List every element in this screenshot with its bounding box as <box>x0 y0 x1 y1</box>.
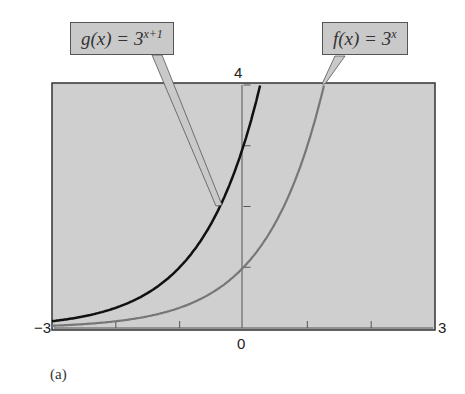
x-zero-label: 0 <box>237 335 245 352</box>
g-callout: g(x) = 3x+1 <box>70 22 174 55</box>
chart-svg <box>0 0 465 394</box>
f-callout-pointer <box>322 56 345 84</box>
f-callout: f(x) = 3x <box>322 22 408 55</box>
y-max-label: 4 <box>234 64 242 81</box>
x-max-label: 3 <box>438 319 446 336</box>
x-min-label: −3 <box>34 319 51 336</box>
caption: (a) <box>50 366 67 383</box>
